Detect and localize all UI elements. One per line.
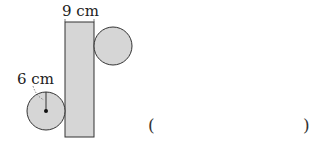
answer-blank[interactable]	[160, 117, 300, 137]
rectangle-shape	[65, 22, 94, 137]
answer-open-paren: (	[148, 117, 155, 134]
circle-top-right	[94, 27, 132, 65]
rect-width-label: 9 cm	[62, 4, 99, 19]
radius-label: 6 cm	[17, 72, 54, 87]
answer-close-paren: )	[303, 117, 310, 134]
center-dot	[44, 109, 48, 113]
